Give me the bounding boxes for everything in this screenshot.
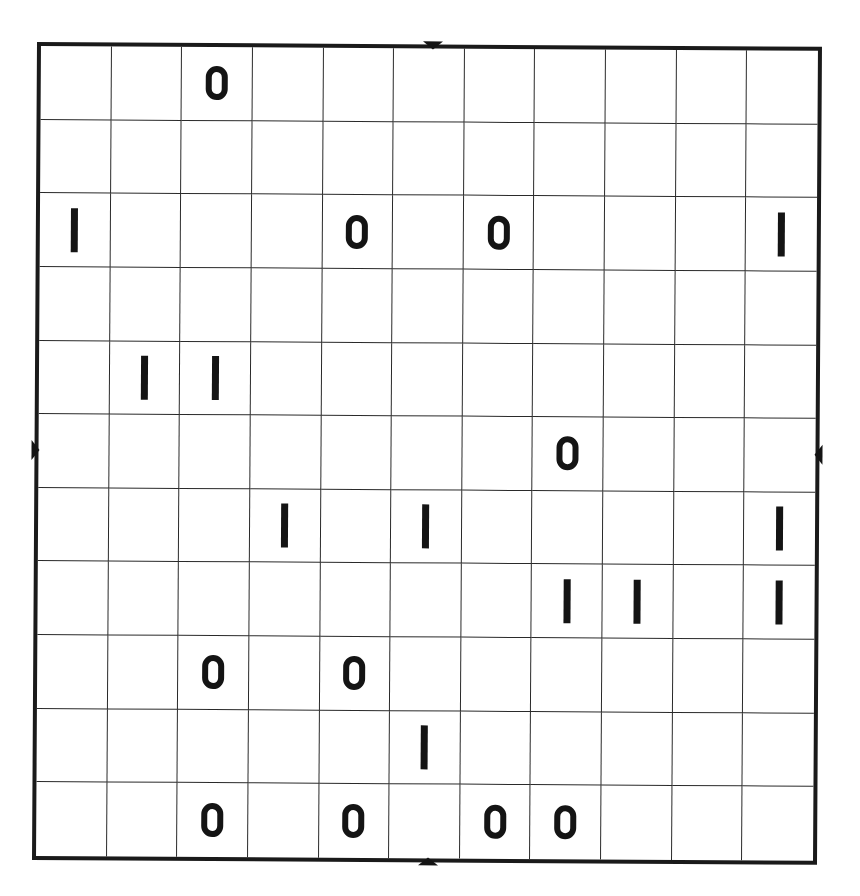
grid-cell-r8-c3[interactable] <box>249 636 320 710</box>
grid-cell-r2-c10[interactable]: 1 <box>746 198 817 272</box>
grid-cell-r6-c8[interactable] <box>603 491 674 565</box>
grid-cell-r7-c9[interactable] <box>673 565 744 639</box>
grid-cell-r10-c1[interactable] <box>107 783 178 857</box>
grid-cell-r6-c7[interactable] <box>532 491 603 565</box>
grid-cell-r0-c2[interactable]: 0 <box>182 47 253 121</box>
grid-cell-r8-c5[interactable] <box>390 637 461 711</box>
grid-cell-r4-c7[interactable] <box>533 344 604 418</box>
grid-cell-r7-c2[interactable] <box>179 562 250 636</box>
grid-cell-r4-c3[interactable] <box>251 342 322 416</box>
grid-cell-r6-c1[interactable] <box>108 488 179 562</box>
grid-cell-r6-c0[interactable] <box>38 488 109 562</box>
grid-cell-r7-c8[interactable]: 1 <box>602 565 673 639</box>
grid-cell-r6-c10[interactable]: 1 <box>744 492 815 566</box>
grid-cell-r3-c1[interactable] <box>110 267 181 341</box>
grid-cell-r5-c8[interactable] <box>603 418 674 492</box>
grid-cell-r10-c7[interactable]: 0 <box>530 785 601 859</box>
grid-cell-r3-c8[interactable] <box>604 270 675 344</box>
grid-cell-r1-c4[interactable] <box>323 121 394 195</box>
grid-cell-r1-c1[interactable] <box>111 120 182 194</box>
grid-cell-r1-c7[interactable] <box>535 123 606 197</box>
grid-cell-r5-c7[interactable]: 0 <box>533 417 604 491</box>
grid-cell-r6-c6[interactable] <box>462 490 533 564</box>
grid-cell-r0-c5[interactable] <box>394 48 465 122</box>
grid-cell-r10-c6[interactable]: 0 <box>460 785 531 859</box>
grid-cell-r10-c8[interactable] <box>601 786 672 860</box>
grid-cell-r1-c5[interactable] <box>393 122 464 196</box>
grid-cell-r0-c9[interactable] <box>676 50 747 124</box>
grid-cell-r6-c9[interactable] <box>674 492 745 566</box>
grid-cell-r1-c6[interactable] <box>464 122 535 196</box>
grid-cell-r4-c4[interactable] <box>321 342 392 416</box>
grid-cell-r4-c10[interactable] <box>745 345 816 419</box>
grid-cell-r7-c6[interactable] <box>461 564 532 638</box>
grid-cell-r4-c5[interactable] <box>392 343 463 417</box>
grid-cell-r5-c10[interactable] <box>745 419 816 493</box>
grid-cell-r0-c1[interactable] <box>111 46 182 120</box>
grid-cell-r9-c1[interactable] <box>107 709 178 783</box>
grid-cell-r3-c2[interactable] <box>180 268 251 342</box>
grid-cell-r0-c3[interactable] <box>252 47 323 121</box>
grid-cell-r9-c8[interactable] <box>602 712 673 786</box>
grid-cell-r2-c6[interactable]: 0 <box>463 196 534 270</box>
grid-cell-r8-c0[interactable] <box>37 635 108 709</box>
grid-cell-r1-c9[interactable] <box>676 124 747 198</box>
grid-cell-r10-c9[interactable] <box>672 786 743 860</box>
grid-cell-r3-c4[interactable] <box>322 269 393 343</box>
grid-cell-r0-c8[interactable] <box>606 49 677 123</box>
grid-cell-r7-c5[interactable] <box>391 564 462 638</box>
grid-cell-r0-c7[interactable] <box>535 49 606 123</box>
grid-cell-r5-c1[interactable] <box>109 415 180 489</box>
grid-cell-r6-c3[interactable]: 1 <box>250 489 321 563</box>
grid-cell-r5-c5[interactable] <box>391 416 462 490</box>
grid-cell-r7-c7[interactable]: 1 <box>532 564 603 638</box>
grid-cell-r9-c7[interactable] <box>531 712 602 786</box>
grid-cell-r4-c0[interactable] <box>39 341 110 415</box>
grid-cell-r9-c0[interactable] <box>36 709 107 783</box>
grid-cell-r1-c2[interactable] <box>181 121 252 195</box>
grid-cell-r9-c10[interactable] <box>743 713 814 787</box>
grid-cell-r9-c4[interactable] <box>319 710 390 784</box>
grid-cell-r2-c5[interactable] <box>393 195 464 269</box>
grid-cell-r3-c0[interactable] <box>39 267 110 341</box>
grid-cell-r2-c8[interactable] <box>605 197 676 271</box>
grid-cell-r9-c9[interactable] <box>672 713 743 787</box>
grid-cell-r4-c1[interactable]: 1 <box>109 341 180 415</box>
grid-cell-r2-c4[interactable]: 0 <box>322 195 393 269</box>
grid-cell-r0-c6[interactable] <box>464 49 535 123</box>
grid-cell-r0-c4[interactable] <box>323 48 394 122</box>
grid-cell-r5-c0[interactable] <box>38 414 109 488</box>
grid-cell-r7-c3[interactable] <box>249 563 320 637</box>
grid-cell-r7-c1[interactable] <box>108 562 179 636</box>
grid-cell-r9-c6[interactable] <box>460 711 531 785</box>
grid-cell-r5-c3[interactable] <box>250 415 321 489</box>
grid-cell-r3-c10[interactable] <box>746 271 817 345</box>
grid-cell-r8-c9[interactable] <box>673 639 744 713</box>
grid-cell-r5-c4[interactable] <box>321 416 392 490</box>
grid-cell-r3-c5[interactable] <box>392 269 463 343</box>
grid-cell-r7-c0[interactable] <box>37 561 108 635</box>
grid-cell-r2-c2[interactable] <box>181 194 252 268</box>
grid-cell-r4-c8[interactable] <box>604 344 675 418</box>
grid-cell-r5-c6[interactable] <box>462 417 533 491</box>
grid-cell-r8-c4[interactable]: 0 <box>319 637 390 711</box>
grid-cell-r8-c7[interactable] <box>531 638 602 712</box>
grid-cell-r4-c9[interactable] <box>674 344 745 418</box>
grid-cell-r6-c4[interactable] <box>320 490 391 564</box>
grid-cell-r8-c8[interactable] <box>602 639 673 713</box>
grid-cell-r4-c2[interactable]: 1 <box>180 341 251 415</box>
grid-cell-r10-c2[interactable]: 0 <box>177 783 248 857</box>
grid-cell-r10-c5[interactable] <box>389 785 460 859</box>
grid-cell-r1-c0[interactable] <box>40 120 111 194</box>
grid-cell-r7-c4[interactable] <box>320 563 391 637</box>
grid-cell-r4-c6[interactable] <box>463 343 534 417</box>
grid-cell-r10-c3[interactable] <box>248 784 319 858</box>
grid-cell-r5-c9[interactable] <box>674 418 745 492</box>
grid-cell-r8-c2[interactable]: 0 <box>178 636 249 710</box>
grid-cell-r10-c0[interactable] <box>36 782 107 856</box>
grid-cell-r3-c6[interactable] <box>463 270 534 344</box>
grid-cell-r10-c4[interactable]: 0 <box>319 784 390 858</box>
grid-cell-r8-c10[interactable] <box>743 639 814 713</box>
grid-cell-r1-c3[interactable] <box>252 121 323 195</box>
grid-cell-r9-c2[interactable] <box>178 710 249 784</box>
